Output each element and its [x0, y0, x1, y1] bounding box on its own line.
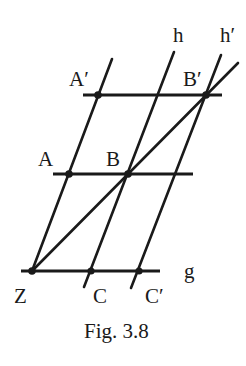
point-C-prime — [135, 267, 142, 274]
figure-canvas: h h′ A′ B′ A B g Z C C′ Fig. 3.8 — [0, 0, 246, 366]
point-A — [65, 170, 73, 178]
point-C — [87, 267, 94, 274]
point-A-prime — [94, 91, 102, 99]
geometry-figure: h h′ A′ B′ A B g Z C C′ Fig. 3.8 — [0, 0, 246, 366]
label-A: A — [38, 147, 54, 171]
label-C-prime: C′ — [145, 284, 164, 308]
line-h — [84, 52, 174, 287]
label-B-prime: B′ — [183, 67, 202, 91]
label-B: B — [106, 147, 120, 171]
line-h-prime — [131, 55, 221, 288]
point-Z — [28, 267, 36, 275]
label-C: C — [93, 284, 107, 308]
label-h: h — [173, 23, 184, 47]
label-Z: Z — [14, 284, 27, 308]
point-B — [124, 170, 132, 178]
label-g: g — [184, 259, 195, 283]
label-A-prime: A′ — [69, 67, 89, 91]
figure-caption: Fig. 3.8 — [84, 319, 149, 343]
label-h-prime: h′ — [220, 23, 235, 47]
point-B-prime — [202, 91, 210, 99]
